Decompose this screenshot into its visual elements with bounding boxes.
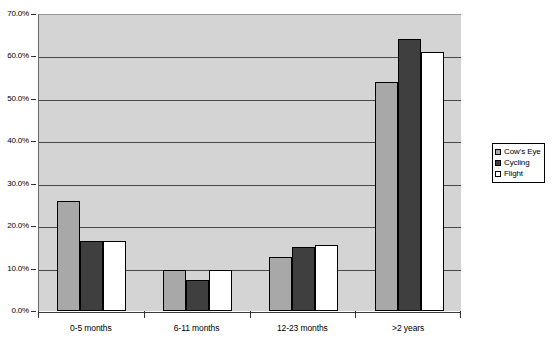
legend-item-label: Cow's Eye bbox=[504, 148, 541, 156]
y-axis-tick-label: 30.0% bbox=[7, 180, 29, 188]
y-axis-tick-mark bbox=[31, 141, 36, 142]
legend-swatch-icon bbox=[495, 149, 501, 155]
plot-area bbox=[38, 14, 461, 311]
legend-swatch-icon bbox=[495, 160, 501, 166]
x-axis-tick-mark bbox=[460, 311, 461, 318]
legend-item: Flight bbox=[495, 169, 541, 179]
y-axis-tick-mark bbox=[31, 226, 36, 227]
bar bbox=[375, 82, 398, 311]
y-axis-tick-label: 40.0% bbox=[7, 137, 29, 145]
y-axis-tick-mark bbox=[31, 184, 36, 185]
bar bbox=[421, 52, 444, 311]
y-axis-tick-label: 20.0% bbox=[7, 222, 29, 230]
bar bbox=[269, 257, 292, 311]
legend-item: Cow's Eye bbox=[495, 147, 541, 157]
bar bbox=[57, 201, 80, 311]
y-axis-tick-label: 0.0% bbox=[12, 307, 29, 315]
legend-item-label: Cycling bbox=[504, 159, 530, 167]
bar-chart: 0.0%10.0%20.0%30.0%40.0%50.0%60.0%70.0% … bbox=[0, 0, 558, 343]
legend-item-label: Flight bbox=[504, 170, 523, 178]
x-axis-tick-label: 0-5 months bbox=[70, 323, 112, 333]
y-axis-tick-mark bbox=[31, 99, 36, 100]
x-axis-tick-mark bbox=[355, 311, 356, 318]
y-axis-tick-label: 70.0% bbox=[7, 10, 29, 18]
x-axis-tick-mark bbox=[144, 311, 145, 318]
y-axis: 0.0%10.0%20.0%30.0%40.0%50.0%60.0%70.0% bbox=[0, 0, 38, 343]
x-axis-tick-mark bbox=[250, 311, 251, 318]
x-axis-tick-label: >2 years bbox=[392, 323, 424, 333]
legend-swatch-icon bbox=[495, 171, 501, 177]
y-axis-tick-mark bbox=[31, 56, 36, 57]
bar bbox=[292, 247, 315, 311]
bar bbox=[163, 270, 186, 311]
bar bbox=[209, 270, 232, 311]
chart-legend: Cow's EyeCyclingFlight bbox=[492, 143, 545, 183]
x-axis-tick-label: 6-11 months bbox=[174, 323, 220, 333]
x-axis: 0-5 months6-11 months12-23 months>2 year… bbox=[38, 318, 461, 340]
bar bbox=[186, 280, 209, 311]
bar bbox=[315, 245, 338, 311]
y-axis-tick-mark bbox=[31, 311, 36, 312]
x-axis-tick-label: 12-23 months bbox=[277, 323, 328, 333]
bar bbox=[80, 241, 103, 311]
y-axis-tick-mark bbox=[31, 14, 36, 15]
legend-item: Cycling bbox=[495, 158, 541, 168]
bar bbox=[398, 39, 421, 311]
y-axis-tick-label: 60.0% bbox=[7, 52, 29, 60]
y-axis-tick-label: 10.0% bbox=[7, 265, 29, 273]
y-axis-tick-label: 50.0% bbox=[7, 95, 29, 103]
x-axis-tick-mark bbox=[38, 311, 39, 318]
y-axis-tick-mark bbox=[31, 269, 36, 270]
bar bbox=[103, 241, 126, 311]
